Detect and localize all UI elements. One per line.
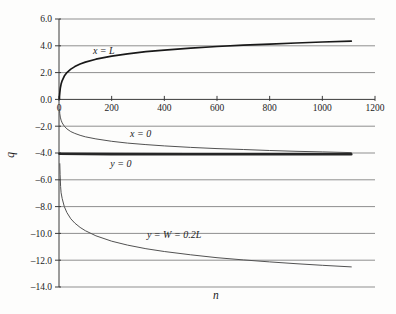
y-tick-label: –6.0 bbox=[34, 175, 52, 185]
x-tick-label: 1200 bbox=[366, 103, 385, 113]
x-tick-label: 1000 bbox=[313, 103, 332, 113]
x-tick-label: 200 bbox=[105, 103, 120, 113]
x-tick-label: 800 bbox=[263, 103, 278, 113]
x-tick-label: 600 bbox=[210, 103, 225, 113]
curve-label-y-0: y = 0 bbox=[109, 158, 131, 169]
y-tick-label: –2.0 bbox=[34, 122, 52, 132]
curve-label-x-l: x = L bbox=[92, 45, 115, 56]
series-x-0 bbox=[60, 110, 352, 153]
y-tick-label: –10.0 bbox=[30, 229, 53, 239]
y-tick-label: –4.0 bbox=[34, 148, 52, 158]
x-axis: 020040060080010001200 bbox=[57, 96, 385, 113]
curve-label-x-0: x = 0 bbox=[129, 128, 151, 139]
y-tick-label: –12.0 bbox=[30, 256, 53, 266]
y-tick-label: 0.0 bbox=[40, 95, 52, 105]
curve-label-y-w-0-2l: y = W = 0.2L bbox=[146, 229, 202, 240]
y-tick-label: –8.0 bbox=[34, 202, 52, 212]
x-axis-title: n bbox=[213, 290, 219, 302]
line-chart: 0200400600800100012006.04.02.00.0–2.0–4.… bbox=[0, 0, 396, 314]
series-y-0 bbox=[60, 154, 352, 155]
y-tick-label: –14.0 bbox=[30, 282, 53, 292]
y-tick-label: 2.0 bbox=[40, 68, 52, 78]
y-tick-label: 4.0 bbox=[40, 41, 52, 51]
y-axis-title: q bbox=[5, 152, 17, 158]
y-axis: 6.04.02.00.0–2.0–4.0–6.0–8.0–10.0–12.0–1… bbox=[30, 14, 61, 292]
curve-labels: x = Lx = 0y = 0y = W = 0.2L bbox=[92, 45, 202, 240]
series-y-w-0-2l bbox=[60, 164, 352, 267]
x-tick-label: 400 bbox=[157, 103, 172, 113]
y-tick-label: 6.0 bbox=[40, 14, 52, 24]
line-chart-figure: 0200400600800100012006.04.02.00.0–2.0–4.… bbox=[0, 0, 396, 314]
